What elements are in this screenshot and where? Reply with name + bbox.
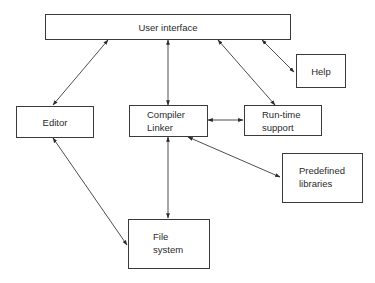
programming-environment-diagram: User interface Help Editor Compiler Link…	[0, 0, 375, 283]
edge-ui-help	[262, 40, 294, 72]
node-user-interface: User interface	[45, 14, 291, 40]
node-label-line1: Run-time	[262, 108, 301, 121]
node-predefined-libraries: Predefined libraries	[282, 153, 363, 203]
node-label-line2: support	[262, 121, 294, 134]
node-label: User interface	[138, 21, 197, 34]
node-label-line2: Linker	[147, 121, 173, 134]
node-label-line2: system	[153, 243, 183, 256]
node-label-line1: File	[153, 230, 168, 243]
edge-compiler-libraries	[188, 137, 280, 177]
node-help: Help	[296, 54, 346, 88]
edge-ui-editor	[53, 40, 108, 105]
node-label-line2: libraries	[299, 177, 332, 190]
node-label-line1: Predefined	[299, 164, 345, 177]
edge-editor-filesystem	[53, 138, 127, 245]
node-label: Editor	[43, 116, 68, 129]
node-editor: Editor	[16, 106, 94, 138]
node-compiler-linker: Compiler Linker	[129, 105, 208, 137]
node-file-system: File system	[128, 219, 210, 269]
node-label-line1: Compiler	[147, 108, 185, 121]
edge-ui-runtime	[218, 40, 275, 105]
node-runtime-support: Run-time support	[244, 105, 322, 136]
node-label: Help	[311, 65, 331, 78]
